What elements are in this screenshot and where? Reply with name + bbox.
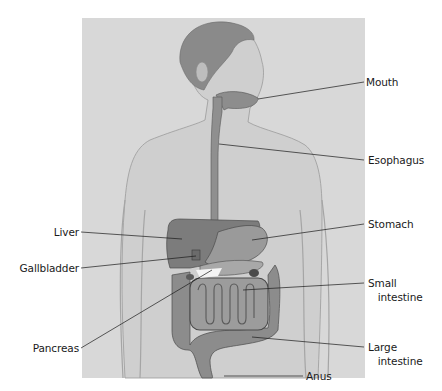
ear <box>196 62 208 82</box>
label-pancreas: Pancreas <box>0 341 79 355</box>
label-stomach: Stomach <box>368 217 414 231</box>
digestive-system-illustration <box>0 0 442 391</box>
label-liver: Liver <box>20 225 79 239</box>
label-small-intestine: Small intestine <box>368 276 423 304</box>
label-large-intestine: Large intestine <box>368 340 423 368</box>
leader-mouth <box>258 82 364 99</box>
label-esophagus: Esophagus <box>368 153 424 167</box>
gallbladder-organ <box>192 250 200 260</box>
label-anus: Anus <box>306 369 332 383</box>
label-gallbladder: Gallbladder <box>0 261 79 275</box>
label-mouth: Mouth <box>366 75 398 89</box>
small-intestine-organ <box>190 278 268 330</box>
